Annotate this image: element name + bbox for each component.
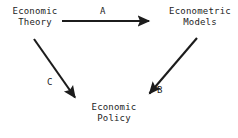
node-economic-policy: Economic Policy (84, 102, 144, 124)
arrow-label-a: A (100, 6, 105, 16)
node-economic-policy-line2: Policy (84, 113, 144, 124)
arrow-label-c: C (47, 77, 52, 87)
node-economic-theory: Economic Theory (6, 6, 64, 28)
arrow-c (34, 39, 75, 98)
node-economic-policy-line1: Economic (84, 102, 144, 113)
node-econometric-models-line2: Models (166, 17, 234, 28)
node-econometric-models-line1: Econometric (166, 6, 234, 17)
node-econometric-models: Econometric Models (166, 6, 234, 28)
node-economic-theory-line1: Economic (6, 6, 64, 17)
diagram-canvas: Economic Theory Econometric Models Econo… (0, 0, 238, 138)
arrow-label-b: B (157, 85, 162, 95)
node-economic-theory-line2: Theory (6, 17, 64, 28)
